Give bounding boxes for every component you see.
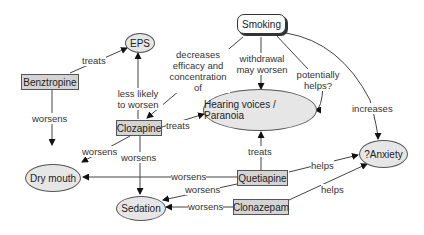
node-clonazepam[interactable]: Clonazepam bbox=[233, 199, 289, 215]
node-quetiapine[interactable]: Quetiapine bbox=[237, 170, 288, 186]
edge-label-quet-dry: worsens bbox=[171, 171, 206, 182]
node-smoking[interactable]: Smoking bbox=[237, 14, 286, 34]
edge-label-benz-dry: worsens bbox=[32, 113, 67, 124]
node-hearing-voices[interactable]: Hearing voices / Paranoia bbox=[203, 89, 317, 131]
edge-label-quet-anx: helps bbox=[311, 160, 334, 171]
node-anxiety[interactable]: ?Anxiety bbox=[359, 140, 408, 168]
node-eps[interactable]: EPS bbox=[125, 33, 155, 53]
edge-label-smk-hv: withdrawal may worsen bbox=[236, 53, 288, 75]
edge-label-smk-anx: increases bbox=[352, 103, 393, 114]
edge-label-cloz-dry: worsens bbox=[82, 146, 117, 157]
edge-label-cloz-sed: worsens bbox=[121, 152, 156, 163]
edge-label-clon-sed: worsens bbox=[188, 201, 223, 212]
edge-label-smk-hv2: potentially helps? bbox=[296, 69, 340, 91]
edge-label-quet-hv: treats bbox=[248, 146, 272, 157]
concept-map: Smoking EPS Benztropine Clozapine Hearin… bbox=[0, 0, 424, 235]
edge-label-smk-cloz: decreases efficacy and concentration of bbox=[166, 49, 230, 93]
node-dry-mouth[interactable]: Dry mouth bbox=[25, 164, 81, 192]
node-clozapine[interactable]: Clozapine bbox=[116, 120, 162, 136]
node-benztropine[interactable]: Benztropine bbox=[21, 74, 79, 90]
edge-label-quet-sed: worsens bbox=[185, 184, 220, 195]
edge-label-cloz-eps: less likely to worsen bbox=[113, 88, 163, 110]
node-sedation[interactable]: Sedation bbox=[116, 196, 166, 221]
edge-label-cloz-hv: treats bbox=[166, 120, 190, 131]
edge-label-benz-eps: treats bbox=[82, 55, 106, 66]
edge-label-clon-anx: helps bbox=[321, 184, 344, 195]
